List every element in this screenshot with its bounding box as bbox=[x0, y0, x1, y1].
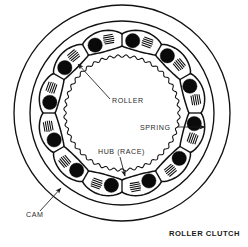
roller bbox=[88, 38, 102, 52]
roller bbox=[104, 178, 118, 192]
roller-clutch-figure: ROLLERSPRINGHUB (RACE)CAM ROLLER CLUTCH bbox=[0, 0, 248, 247]
callout-label-cam: CAM bbox=[26, 211, 43, 219]
roller bbox=[125, 34, 139, 48]
callout-label-hub: HUB (RACE) bbox=[98, 148, 145, 156]
roller bbox=[142, 174, 156, 188]
roller bbox=[172, 151, 186, 165]
roller bbox=[187, 116, 201, 130]
roller bbox=[47, 133, 61, 147]
roller bbox=[69, 163, 83, 177]
callout-label-roller: ROLLER bbox=[112, 97, 144, 105]
roller-clutch-diagram: ROLLERSPRINGHUB (RACE)CAM ROLLER CLUTCH bbox=[0, 0, 248, 247]
roller bbox=[160, 49, 174, 63]
roller bbox=[43, 95, 57, 109]
figure-title: ROLLER CLUTCH bbox=[169, 229, 240, 238]
roller bbox=[58, 60, 72, 74]
callout-label-spring: SPRING bbox=[140, 124, 171, 132]
roller bbox=[183, 79, 197, 93]
